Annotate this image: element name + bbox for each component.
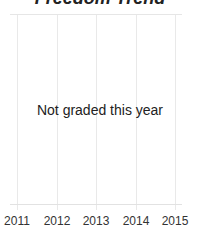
x-label: 2012	[37, 214, 77, 228]
x-label: 2014	[116, 214, 156, 228]
x-label: 2015	[155, 214, 195, 228]
x-axis-line	[10, 204, 182, 205]
x-label: 2013	[76, 214, 116, 228]
chart-title: Freedom Trend	[0, 0, 200, 9]
x-label: 2011	[0, 214, 37, 228]
not-graded-message: Not graded this year	[0, 102, 200, 118]
